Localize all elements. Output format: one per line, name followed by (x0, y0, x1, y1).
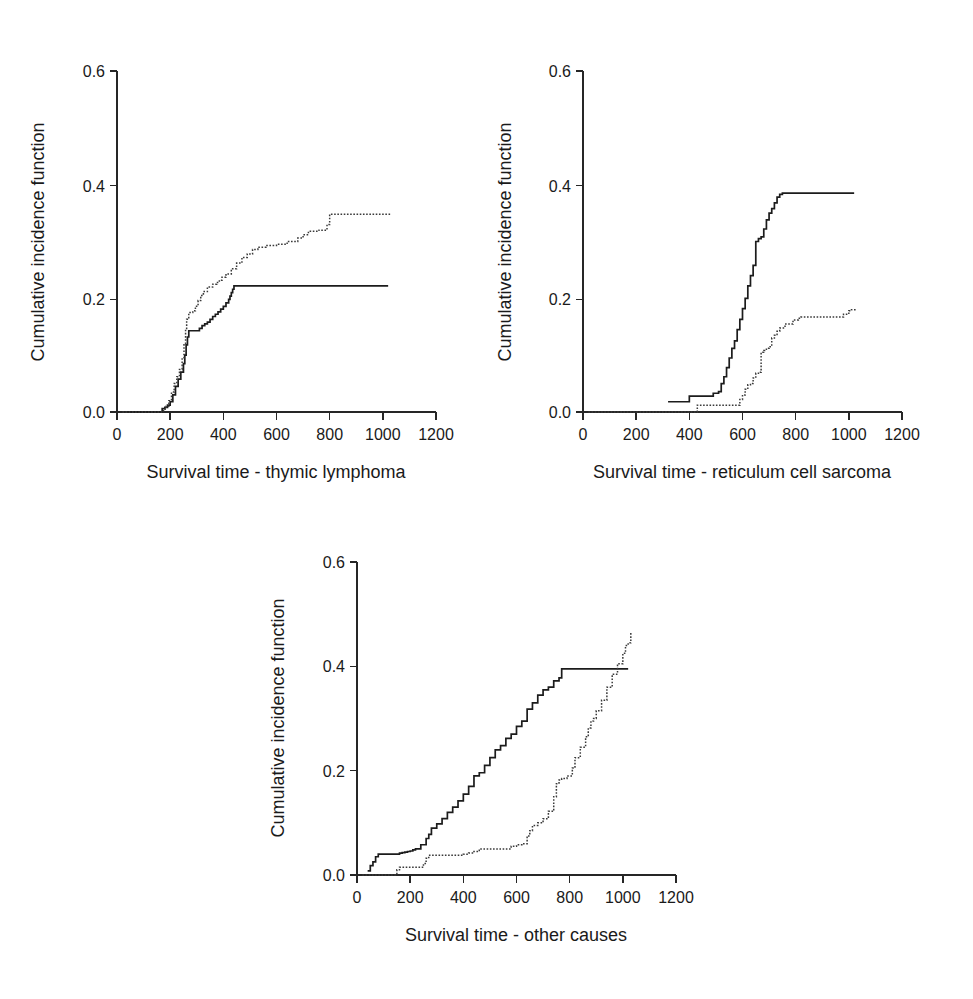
x-axis-title: Survival time - thymic lymphoma (146, 462, 406, 482)
x-ticks-other-causes: 0 200 400 600 800 1000 1200 (353, 875, 694, 906)
x-axis-title: Survival time - reticulum cell sarcoma (593, 462, 892, 482)
x-tick-label: 800 (782, 426, 809, 443)
y-tick-label: 0.6 (323, 554, 345, 571)
curve-solid (128, 286, 389, 412)
x-tick-label: 0 (113, 426, 122, 443)
curves-thymic-lymphoma (122, 214, 390, 412)
y-tick-label: 0.4 (83, 178, 105, 195)
y-tick-label: 0.6 (83, 63, 105, 80)
curve-solid (668, 193, 854, 402)
x-tick-label: 600 (263, 426, 290, 443)
y-tick-label: 0.0 (323, 867, 345, 884)
x-tick-label: 1000 (605, 889, 641, 906)
x-tick-label: 800 (556, 889, 583, 906)
curve-dotted (588, 310, 856, 412)
y-axis-title: Cumulative incidence function (268, 598, 288, 837)
axes-thymic-lymphoma (117, 71, 436, 412)
panel-other-causes: 0.6 0.4 0.2 0.0 0 200 400 600 800 1000 1… (240, 520, 730, 999)
x-ticks-thymic-lymphoma: 0 200 400 600 800 1000 1200 (113, 412, 454, 443)
curve-solid (368, 669, 629, 871)
y-axis-title: Cumulative incidence function (495, 122, 515, 361)
x-tick-label: 1000 (365, 426, 401, 443)
x-tick-label: 200 (157, 426, 184, 443)
axes-reticulum-cell-sarcoma (583, 71, 902, 412)
y-tick-label: 0.2 (83, 291, 105, 308)
x-tick-label: 400 (210, 426, 237, 443)
x-tick-label: 0 (353, 889, 362, 906)
figure-cumulative-incidence: 0.6 0.4 0.2 0.0 0 200 400 600 800 1000 1… (0, 0, 973, 999)
y-ticks-other-causes: 0.6 0.4 0.2 0.0 (323, 554, 357, 884)
x-ticks-reticulum-cell-sarcoma: 0 200 400 600 800 1000 1200 (579, 412, 920, 443)
curve-dotted (122, 214, 390, 412)
curves-reticulum-cell-sarcoma (588, 193, 856, 412)
y-tick-label: 0.6 (549, 63, 571, 80)
curves-other-causes (362, 632, 630, 875)
y-tick-label: 0.0 (549, 404, 571, 421)
x-tick-label: 200 (623, 426, 650, 443)
chart-svg-thymic-lymphoma: 0.6 0.4 0.2 0.0 0 200 400 600 800 1000 1… (0, 30, 490, 500)
panel-reticulum-cell-sarcoma: 0.6 0.4 0.2 0.0 0 200 400 600 800 1000 1… (483, 30, 973, 500)
x-tick-label: 400 (676, 426, 703, 443)
x-tick-label: 400 (450, 889, 477, 906)
x-tick-label: 1200 (884, 426, 920, 443)
x-tick-label: 600 (729, 426, 756, 443)
y-ticks-reticulum-cell-sarcoma: 0.6 0.4 0.2 0.0 (549, 63, 583, 421)
x-tick-label: 600 (503, 889, 530, 906)
x-axis-title: Survival time - other causes (405, 925, 627, 945)
y-tick-label: 0.4 (549, 178, 571, 195)
y-axis-title: Cumulative incidence function (28, 122, 48, 361)
axes-other-causes (357, 562, 676, 875)
x-tick-label: 200 (397, 889, 424, 906)
x-tick-label: 1200 (658, 889, 694, 906)
y-tick-label: 0.0 (83, 404, 105, 421)
chart-svg-reticulum-cell-sarcoma: 0.6 0.4 0.2 0.0 0 200 400 600 800 1000 1… (483, 30, 973, 500)
x-tick-label: 1000 (831, 426, 867, 443)
y-tick-label: 0.4 (323, 658, 345, 675)
y-ticks-thymic-lymphoma: 0.6 0.4 0.2 0.0 (83, 63, 117, 421)
y-tick-label: 0.2 (323, 763, 345, 780)
chart-svg-other-causes: 0.6 0.4 0.2 0.0 0 200 400 600 800 1000 1… (240, 520, 730, 999)
panel-thymic-lymphoma: 0.6 0.4 0.2 0.0 0 200 400 600 800 1000 1… (0, 30, 490, 500)
x-tick-label: 0 (579, 426, 588, 443)
x-tick-label: 1200 (418, 426, 454, 443)
x-tick-label: 800 (316, 426, 343, 443)
y-tick-label: 0.2 (549, 291, 571, 308)
